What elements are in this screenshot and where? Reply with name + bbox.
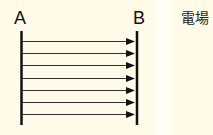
arrowhead-icon — [126, 62, 135, 69]
arrowhead-icon — [126, 50, 135, 57]
arrowhead-icon — [126, 111, 135, 118]
field-lines — [22, 38, 135, 118]
arrowhead-icon — [126, 75, 135, 82]
arrowhead-icon — [126, 99, 135, 106]
electric-field-diagram — [0, 0, 213, 135]
arrowhead-icon — [126, 87, 135, 94]
arrowhead-icon — [126, 38, 135, 45]
